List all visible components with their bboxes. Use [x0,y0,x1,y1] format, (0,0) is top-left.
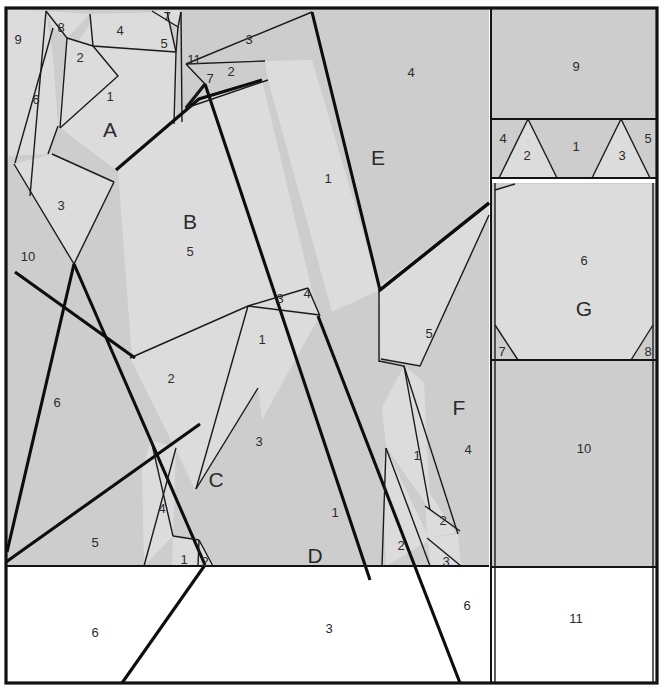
edge-5-outer [181,12,182,122]
n-3-right: 3 [618,148,625,163]
n-3-small: 3 [276,291,283,306]
region-d: D [307,544,322,567]
n-7-top: 7 [163,9,170,24]
n-2-right: 2 [523,148,530,163]
n-3-c: 3 [255,434,262,449]
region-g: G [576,297,592,320]
n-2-tiny: 2 [201,554,208,569]
n-6-bottom: 6 [91,625,98,640]
region-c: C [208,468,223,491]
n-6-bigleft: 6 [53,395,60,410]
region-g-fill [495,184,653,360]
n-4-small: 4 [303,286,310,301]
n-1-tiny: 1 [180,552,187,567]
n-6-g: 6 [580,253,587,268]
n-5-top: 5 [160,36,167,51]
n-10-right: 10 [577,441,591,456]
n-11: 11 [187,52,201,67]
n-6-bottomr: 6 [463,598,470,613]
n-10-left: 10 [21,249,35,264]
n-6-left: 6 [32,92,39,107]
region-a: A [103,118,117,141]
right-band-10 [492,360,657,567]
n-4-right: 4 [499,131,506,146]
n-3-fbot: 3 [442,554,449,569]
n-2-topleft: 2 [76,50,83,65]
n-1-right: 1 [572,139,579,154]
n-1-d: 1 [331,505,338,520]
n-4-f: 4 [464,442,471,457]
edge-2tiny [198,540,199,566]
n-2-mid: 2 [227,64,234,79]
n-4-e: 4 [407,65,414,80]
region-e: E [371,146,385,169]
n-3-left: 3 [57,198,64,213]
n-7-g: 7 [498,344,505,359]
n-1-f: 1 [413,448,420,463]
n-7-mid: 7 [206,71,213,86]
n-2-fbot: 2 [439,513,446,528]
region-f: F [453,396,466,419]
diagram-canvas: ABCDEFG 98475261117234131053412653144151… [0,0,664,695]
left-panel-white [6,567,489,683]
n-5-right: 5 [644,131,651,146]
n-11-right: 11 [569,611,583,626]
n-5-lower: 5 [425,326,432,341]
n-8-topleft: 8 [57,20,64,35]
n-1-e: 1 [324,171,331,186]
n-2-fbot2: 2 [397,538,404,553]
partition-diagram: ABCDEFG 98475261117234131053412653144151… [0,0,664,695]
n-8-g: 8 [644,344,651,359]
n-1-mid: 1 [258,332,265,347]
n-3-bottom: 3 [325,621,332,636]
n-9-right: 9 [572,59,579,74]
n-2-mid2: 2 [167,371,174,386]
n-1-a: 1 [106,89,113,104]
n-9-topleft: 9 [14,32,21,47]
n-3-topmid: 3 [245,32,252,47]
n-5-b: 5 [186,244,193,259]
n-4-c: 4 [158,501,165,516]
n-4-top: 4 [116,23,123,38]
region-b: B [183,210,197,233]
n-5-bottomleft: 5 [91,535,98,550]
